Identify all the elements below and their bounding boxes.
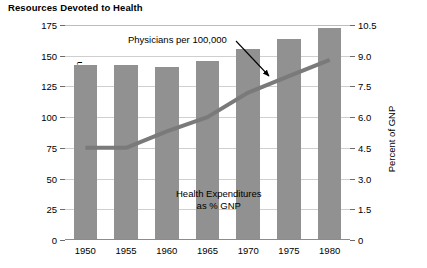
bar bbox=[196, 61, 220, 239]
y-axis-right-tick-label: 6.0 bbox=[358, 112, 371, 123]
x-axis-line bbox=[65, 239, 350, 240]
chart-container: Resources Devoted to Health Physicians p… bbox=[0, 0, 427, 268]
y-axis-left-tick-label: 150 bbox=[41, 50, 57, 61]
y-axis-right-tick-label: 1.5 bbox=[358, 204, 371, 215]
y-axis-left-tick-label: 75 bbox=[46, 142, 57, 153]
y-axis-left-tick bbox=[60, 25, 65, 26]
y-axis-left-tick bbox=[60, 56, 65, 57]
y-axis-right-tick-label: 7.5 bbox=[358, 81, 371, 92]
y-axis-left-tick bbox=[60, 209, 65, 210]
y-axis-right-tick bbox=[350, 148, 355, 149]
x-axis-tick-label: 1970 bbox=[238, 245, 259, 256]
x-axis-tick-label: 1965 bbox=[197, 245, 218, 256]
y-axis-right-tick-label: 10.5 bbox=[358, 20, 377, 31]
annotation-health-line2: as % GNP bbox=[176, 200, 262, 212]
y-axis-left-tick-label: 175 bbox=[41, 20, 57, 31]
y-axis-right-tick bbox=[350, 117, 355, 118]
y-axis-right-tick-label: 3.0 bbox=[358, 173, 371, 184]
x-axis-tick-label: 1950 bbox=[75, 245, 96, 256]
y-axis-left-tick bbox=[60, 117, 65, 118]
x-axis-tick-label: 1975 bbox=[278, 245, 299, 256]
y-axis-left-tick bbox=[60, 179, 65, 180]
bar bbox=[155, 67, 179, 239]
bar bbox=[114, 65, 138, 239]
annotation-health-expenditures: Health Expenditures as % GNP bbox=[176, 188, 262, 212]
y-axis-right-tick bbox=[350, 240, 355, 241]
annotation-physicians: Physicians per 100,000 bbox=[128, 34, 227, 46]
y-axis-right-tick bbox=[350, 25, 355, 26]
x-axis-tick-label: 1960 bbox=[156, 245, 177, 256]
y-axis-right-tick bbox=[350, 179, 355, 180]
y-axis-right-tick bbox=[350, 86, 355, 87]
bar bbox=[318, 28, 342, 239]
annotation-health-line1: Health Expenditures bbox=[176, 188, 262, 199]
x-axis-tick-label: 1980 bbox=[319, 245, 340, 256]
y-axis-right-tick bbox=[350, 56, 355, 57]
gridline bbox=[65, 56, 350, 57]
y-axis-right-tick-label: 0 bbox=[358, 235, 363, 246]
y-axis-right-tick-label: 4.5 bbox=[358, 142, 371, 153]
y-axis-left-tick-label: 0 bbox=[52, 235, 57, 246]
y-axis-left-tick bbox=[60, 240, 65, 241]
y-axis-left-tick-label: 100 bbox=[41, 112, 57, 123]
chart-title: Resources Devoted to Health bbox=[8, 2, 143, 13]
x-axis-tick-label: 1955 bbox=[115, 245, 136, 256]
y-axis-right-tick-label: 9.0 bbox=[358, 50, 371, 61]
bar bbox=[277, 39, 301, 239]
y-axis-left-tick-label: 50 bbox=[46, 173, 57, 184]
y-axis-left-tick bbox=[60, 86, 65, 87]
y-axis-left-tick-label: 125 bbox=[41, 81, 57, 92]
y-axis-left-tick bbox=[60, 148, 65, 149]
y-axis-right-title: Percent of GNP bbox=[386, 106, 397, 173]
bar bbox=[74, 65, 98, 239]
y-axis-right-tick bbox=[350, 209, 355, 210]
y-axis-left-tick-label: 25 bbox=[46, 204, 57, 215]
